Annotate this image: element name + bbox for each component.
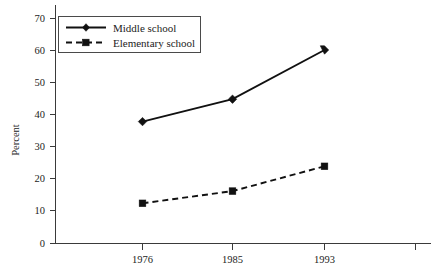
x-tick-label-1993: 1993 [314, 254, 335, 265]
y-tick-label-60: 60 [35, 45, 46, 56]
chart-canvas: 70 60 50 40 30 20 10 0 Percent 1976 1985… [0, 0, 445, 277]
y-tick-label-0: 0 [40, 238, 45, 249]
chart-legend: Middle school Elementary school [59, 17, 201, 53]
x-tick-label-1985: 1985 [222, 254, 243, 265]
legend-label-middle-school: Middle school [113, 22, 176, 34]
y-tick-label-70: 70 [35, 13, 46, 24]
legend-marker-square-icon [83, 39, 90, 46]
legend-label-elementary-school: Elementary school [113, 37, 195, 49]
y-tick-label-30: 30 [35, 141, 46, 152]
x-tick-label-1976: 1976 [132, 254, 153, 265]
line-chart: 70 60 50 40 30 20 10 0 Percent 1976 1985… [0, 0, 445, 277]
y-tick-label-10: 10 [35, 205, 46, 216]
data-point-elementary-1985 [229, 188, 236, 195]
y-tick-label-50: 50 [35, 77, 46, 88]
data-point-elementary-1993 [321, 163, 328, 170]
y-tick-label-20: 20 [35, 173, 46, 184]
data-point-elementary-1976 [139, 200, 146, 207]
y-tick-label-40: 40 [35, 109, 46, 120]
y-axis-title: Percent [10, 124, 21, 156]
